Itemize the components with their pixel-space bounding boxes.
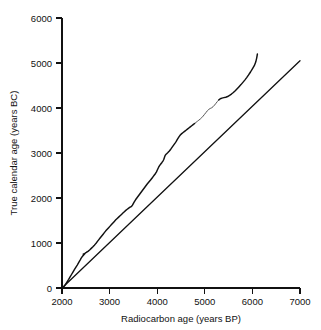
x-tick-label-7000: 7000 — [289, 296, 310, 307]
y-tick-label-2000: 2000 — [31, 193, 52, 204]
x-tick-label-6000: 6000 — [242, 296, 263, 307]
y-tick-label-4000: 4000 — [31, 103, 52, 114]
y-tick-label-5000: 5000 — [31, 58, 52, 69]
radiocarbon-calibration-chart: 0 1000 2000 3000 4000 5000 6000 2000 300… — [0, 0, 321, 330]
x-axis-title: Radiocarbon age (years BP) — [121, 313, 241, 324]
x-tick-label-2000: 2000 — [51, 296, 72, 307]
x-tick-label-5000: 5000 — [194, 296, 215, 307]
y-tick-label-1000: 1000 — [31, 238, 52, 249]
y-axis-title: True calendar age (years BC) — [8, 91, 19, 216]
y-tick-label-3000: 3000 — [31, 148, 52, 159]
y-tick-label-0: 0 — [47, 283, 52, 294]
y-tick-label-6000: 6000 — [31, 13, 52, 24]
x-tick-label-3000: 3000 — [99, 296, 120, 307]
x-tick-label-4000: 4000 — [147, 296, 168, 307]
chart-figure: 0 1000 2000 3000 4000 5000 6000 2000 300… — [0, 0, 321, 330]
